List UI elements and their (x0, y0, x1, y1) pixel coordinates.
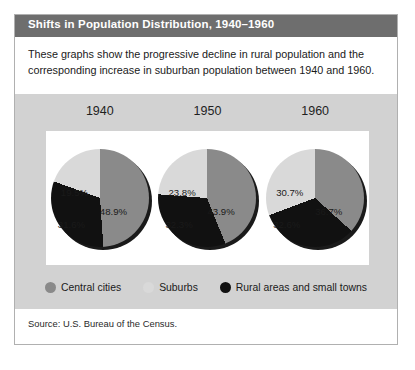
pie-disc (266, 149, 364, 247)
legend-swatch-icon (45, 282, 56, 293)
legend-item-label: Central cities (61, 282, 121, 293)
source-note: Source: U.S. Bureau of the Census. (28, 318, 177, 329)
year-label-row: 194019501960 (46, 104, 369, 124)
page-title: Shifts in Population Distribution, 1940–… (28, 18, 274, 30)
chart-band: 194019501960 48.9%19.5%31.6%43.9%23.8%32… (15, 94, 397, 309)
year-label: 1960 (261, 104, 369, 124)
pie-chart-plot-area: 48.9%19.5%31.6%43.9%23.8%32.3%36.7%30.7%… (46, 131, 369, 265)
pie-slice-label: 32.6% (273, 219, 300, 230)
pie-slice-label: 30.7% (276, 187, 303, 198)
legend-item-label: Rural areas and small towns (236, 282, 367, 293)
year-label: 1940 (46, 104, 154, 124)
pie-slice-label: 43.9% (207, 206, 234, 217)
year-label: 1950 (154, 104, 262, 124)
figure-panel: Shifts in Population Distribution, 1940–… (14, 14, 398, 345)
pie-chart: 43.9%23.8%32.3% (158, 149, 256, 247)
legend-item-rural: Rural areas and small towns (220, 282, 367, 293)
chart-legend: Central citiesSuburbsRural areas and sma… (15, 276, 397, 298)
pie-slice-label: 36.7% (315, 206, 342, 217)
legend-item-suburbs: Suburbs (143, 282, 198, 293)
pie-disc (158, 149, 256, 247)
legend-swatch-icon (220, 282, 231, 293)
pie-slice-label: 23.8% (168, 187, 195, 198)
pie-slice-label: 19.5% (61, 187, 88, 198)
legend-swatch-icon (143, 282, 154, 293)
pie-chart: 48.9%19.5%31.6% (51, 149, 149, 247)
legend-item-label: Suburbs (159, 282, 198, 293)
pie-chart: 36.7%30.7%32.6% (266, 149, 364, 247)
pie-disc (51, 149, 149, 247)
figure-title-bar: Shifts in Population Distribution, 1940–… (15, 15, 397, 37)
pie-slice-label: 32.3% (165, 219, 192, 230)
pie-slice-label: 31.6% (58, 219, 85, 230)
pie-slice-label: 48.9% (100, 206, 127, 217)
figure-description: These graphs show the progressive declin… (28, 46, 380, 78)
legend-item-central-cities: Central cities (45, 282, 121, 293)
